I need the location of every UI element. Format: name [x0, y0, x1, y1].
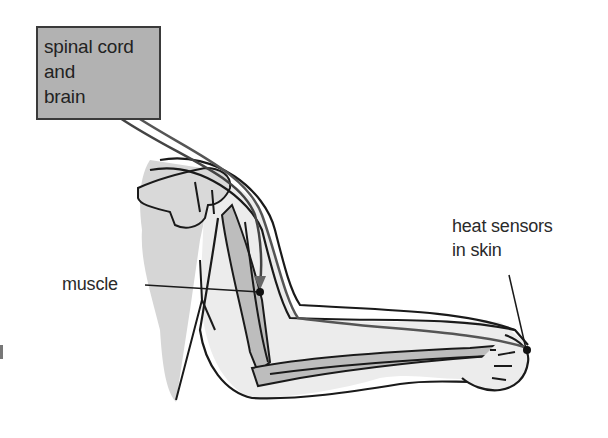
heat-sensor-label: heat sensors in skin	[452, 214, 553, 262]
muscle-marker	[256, 288, 264, 296]
sensor-marker	[523, 346, 531, 354]
muscle-label: muscle	[62, 274, 118, 295]
spinal-cord-brain-box: spinal cord and brain	[36, 26, 161, 120]
brain-box-label: spinal cord and brain	[44, 34, 134, 109]
